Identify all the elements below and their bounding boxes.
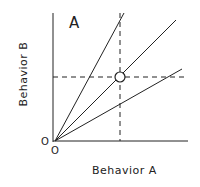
x-axis-label: Behavior A (92, 164, 157, 177)
origin-label-x: O (51, 145, 59, 156)
y-axis-label: Behavior B (17, 51, 30, 107)
middle-line (55, 20, 176, 141)
diagram-graphics (0, 0, 200, 187)
origin-label-y: O (41, 136, 49, 147)
diagram-figure: A Behavior A Behavior B O O (0, 0, 200, 187)
panel-label: A (69, 14, 80, 32)
reference-point-circle (115, 72, 125, 82)
